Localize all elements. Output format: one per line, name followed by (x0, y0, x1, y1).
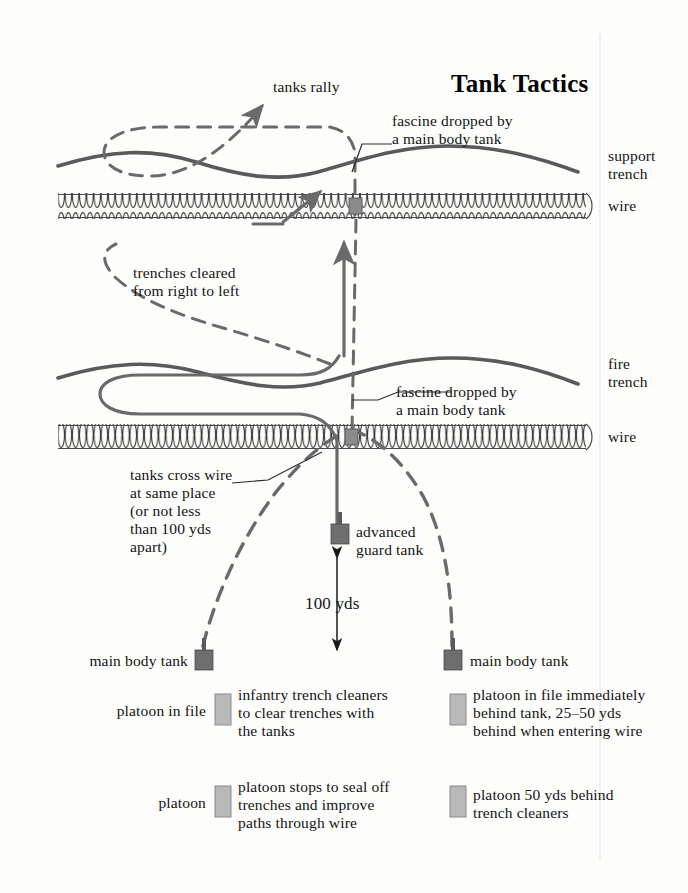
legend-label-platoon-in-file: platoon in file (0, 702, 206, 720)
label-advanced-guard-tank: advanced guard tank (356, 523, 423, 559)
diagram-canvas (0, 0, 688, 893)
legend-desc-behind-tank: platoon in file immediately behind tank,… (473, 686, 646, 740)
wire-belt-top (58, 193, 592, 219)
legend-desc-seal-off: platoon stops to seal off trenches and i… (238, 778, 390, 832)
legend-desc-trench-cleaners: infantry trench cleaners to clear trench… (238, 686, 388, 740)
wire-belt-middle (58, 424, 592, 450)
label-main-body-tank-right: main body tank (470, 652, 569, 670)
label-wire-top: wire (608, 197, 636, 215)
trenches-cleared-route (105, 244, 330, 364)
tank-symbol-advanced-guard (331, 512, 349, 544)
legend-desc-50yds-behind: platoon 50 yds behind trench cleaners (473, 786, 614, 822)
label-100yds: 100 yds (305, 594, 360, 614)
tank-symbol-main-body-left (195, 638, 213, 670)
support-trench-line (58, 146, 578, 177)
legend-label-platoon: platoon (0, 794, 206, 812)
platoon-symbol-seal-off (215, 786, 231, 817)
main-body-tank-vertical-dashed (352, 220, 356, 430)
platoon-symbol-trench-cleaners (215, 694, 231, 725)
fascine-marker-top (349, 198, 362, 214)
label-fire-trench: fire trench (608, 355, 648, 391)
tank-symbol-main-body-right (444, 638, 462, 670)
label-trenches-cleared: trenches cleared from right to left (133, 264, 240, 300)
label-fascine-top: fascine dropped by a main body tank (392, 112, 513, 148)
tank-tactics-diagram: Tank Tactics tanks rally fascine dropped… (0, 0, 688, 893)
fascine-marker-middle (345, 429, 358, 445)
label-tanks-cross-wire: tanks cross wire at same place (or not l… (130, 466, 232, 556)
label-main-body-tank-left: main body tank (0, 652, 188, 670)
platoon-symbol-behind-tank (450, 694, 466, 725)
label-tanks-rally: tanks rally (273, 78, 340, 96)
label-wire-middle: wire (608, 428, 636, 446)
platoon-symbol-50yds-behind (450, 786, 466, 817)
label-fascine-middle: fascine dropped by a main body tank (396, 383, 517, 419)
label-support-trench: support trench (608, 147, 656, 183)
page-title: Tank Tactics (451, 70, 589, 98)
